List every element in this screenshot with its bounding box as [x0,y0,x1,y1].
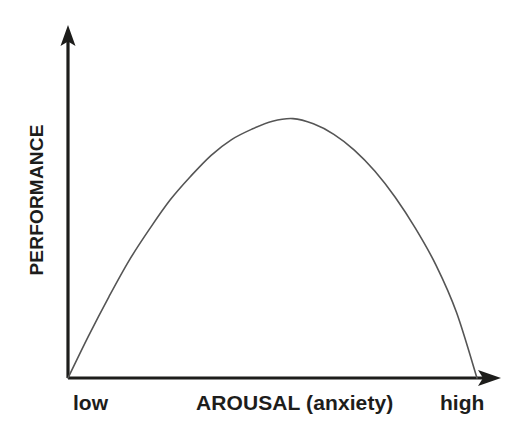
y-axis-label: PERFORMANCE [27,124,46,275]
y-axis-group [61,25,76,378]
x-axis-low-label: low [73,392,108,413]
x-axis-title: AROUSAL (anxiety) [196,392,393,413]
inverted-u-performance-chart: PERFORMANCE low AROUSAL (anxiety) high [0,0,523,446]
x-axis-high-label: high [440,392,484,413]
x-axis-group [68,370,501,386]
performance-arousal-curve [68,119,477,378]
chart-canvas [0,0,523,446]
